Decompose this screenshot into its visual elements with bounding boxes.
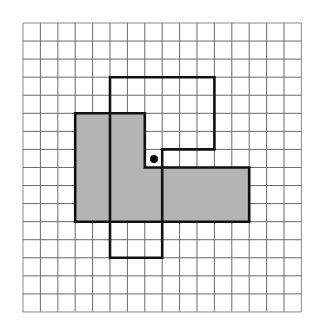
grid-diagram: [0, 0, 317, 333]
rotation-center-dot: [150, 155, 158, 163]
markers-layer: [150, 155, 158, 163]
grid-svg: [0, 0, 317, 333]
